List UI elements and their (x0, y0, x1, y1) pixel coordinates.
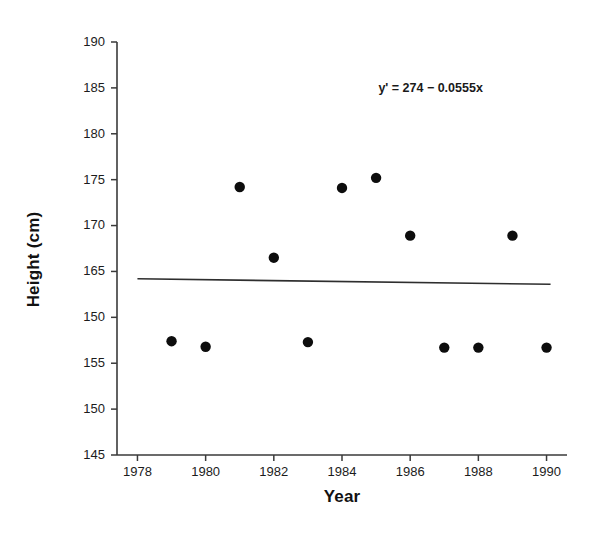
y-tick-label: 165 (83, 263, 105, 278)
regression-line-group (137, 279, 550, 285)
data-point (405, 230, 415, 240)
data-point (269, 252, 279, 262)
regression-line (137, 279, 550, 285)
y-tick-label: 170 (83, 217, 105, 232)
data-point (166, 336, 176, 346)
y-tick-label: 150 (83, 309, 105, 324)
y-axis-ticks: 190185180175170165150155150145 (83, 34, 117, 462)
chart-figure: Height (cm) 1901851801751701651501551501… (0, 0, 604, 539)
axes (117, 42, 567, 455)
regression-equation: y' = 274 − 0.0555x (378, 81, 483, 95)
x-axis-title: Year (117, 487, 567, 507)
data-point (235, 182, 245, 192)
x-tick-label: 1986 (396, 464, 425, 479)
y-tick-label: 185 (83, 80, 105, 95)
y-tick-label: 155 (83, 355, 105, 370)
x-tick-label: 1988 (464, 464, 493, 479)
data-point (439, 342, 449, 352)
x-axis-ticks: 1978198019821984198619881990 (123, 455, 561, 479)
data-point (541, 342, 551, 352)
data-point (507, 230, 517, 240)
x-tick-label: 1978 (123, 464, 152, 479)
y-tick-label: 145 (83, 447, 105, 462)
x-tick-label: 1990 (532, 464, 561, 479)
x-tick-label: 1980 (191, 464, 220, 479)
data-points (166, 173, 551, 353)
y-tick-label: 190 (83, 34, 105, 49)
chart-annotations: y' = 274 − 0.0555x (378, 81, 483, 95)
x-tick-label: 1984 (328, 464, 357, 479)
data-point (473, 342, 483, 352)
y-tick-label: 180 (83, 126, 105, 141)
data-point (371, 173, 381, 183)
y-tick-label: 150 (83, 401, 105, 416)
x-tick-label: 1982 (259, 464, 288, 479)
data-point (200, 342, 210, 352)
data-point (303, 337, 313, 347)
y-tick-label: 175 (83, 172, 105, 187)
scatter-plot: 190185180175170165150155150145 197819801… (0, 0, 604, 539)
data-point (337, 183, 347, 193)
